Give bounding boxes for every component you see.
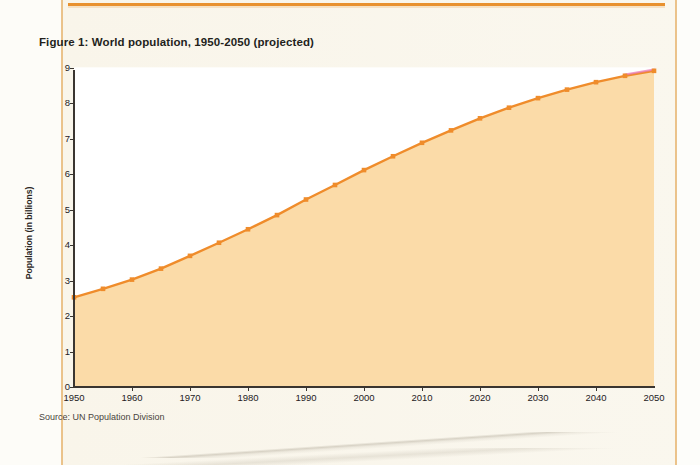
x-tick-label: 1950 bbox=[54, 392, 94, 403]
x-tick-mark bbox=[190, 387, 191, 391]
x-tick-mark bbox=[132, 387, 133, 391]
x-tick-mark bbox=[422, 387, 423, 391]
x-tick-label: 2030 bbox=[518, 392, 558, 403]
x-tick-mark bbox=[364, 387, 365, 391]
x-tick-label: 2010 bbox=[402, 392, 442, 403]
x-tick-label: 1990 bbox=[286, 392, 326, 403]
y-tick-mark bbox=[70, 245, 74, 246]
y-axis-line bbox=[73, 70, 75, 388]
y-tick-mark bbox=[70, 352, 74, 353]
x-tick-label: 2040 bbox=[576, 392, 616, 403]
y-tick-mark bbox=[70, 139, 74, 140]
y-tick-mark bbox=[70, 68, 74, 69]
x-tick-label: 2020 bbox=[460, 392, 500, 403]
area-fill bbox=[74, 71, 654, 387]
x-tick-mark bbox=[248, 387, 249, 391]
x-tick-label: 2050 bbox=[634, 392, 674, 403]
y-tick-mark bbox=[70, 387, 74, 388]
y-tick-mark bbox=[70, 174, 74, 175]
x-tick-label: 1980 bbox=[228, 392, 268, 403]
y-tick-mark bbox=[70, 103, 74, 104]
x-tick-mark bbox=[480, 387, 481, 391]
x-tick-label: 1970 bbox=[170, 392, 210, 403]
y-tick-mark bbox=[70, 210, 74, 211]
y-tick-mark bbox=[70, 281, 74, 282]
x-tick-mark bbox=[306, 387, 307, 391]
x-tick-label: 2000 bbox=[344, 392, 384, 403]
y-tick-mark bbox=[70, 316, 74, 317]
x-tick-mark bbox=[596, 387, 597, 391]
chart: Population (in billions) 0123456789 1950… bbox=[0, 0, 700, 465]
x-tick-mark bbox=[538, 387, 539, 391]
x-tick-label: 1960 bbox=[112, 392, 152, 403]
figure-page: Figure 1: World population, 1950-2050 (p… bbox=[0, 0, 700, 465]
source-note: Source: UN Population Division bbox=[39, 412, 165, 422]
